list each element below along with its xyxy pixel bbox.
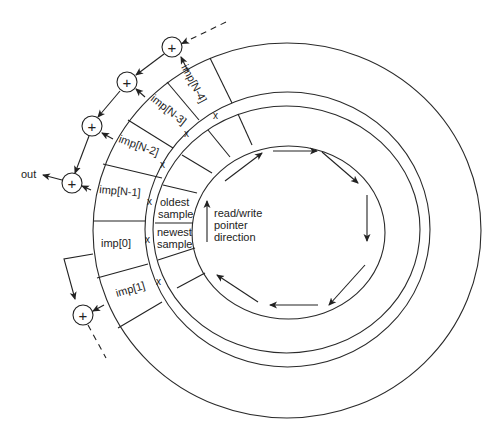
plus-icon: + xyxy=(68,175,77,192)
newest-sample-label-line2: sample xyxy=(157,238,192,250)
oldest-sample-label-line1: oldest xyxy=(160,196,189,208)
imp0-to-adder-connector xyxy=(64,254,93,299)
output-label: out xyxy=(21,168,36,180)
rotation-arrow-icon xyxy=(217,275,258,302)
cell-label-imp-0: imp[0] xyxy=(101,237,131,249)
cell-to-adder-arrow-icon xyxy=(93,305,104,311)
circular-buffer-diagram: imp[N-4] imp[N-3] imp[N-2] imp[N-1] imp[… xyxy=(0,0,497,434)
pointer-label-line3: direction xyxy=(214,231,256,243)
pointer-label-line2: pointer xyxy=(214,219,248,231)
plus-icon: + xyxy=(79,307,88,324)
sample-ring xyxy=(153,106,420,353)
multiply-icon: x xyxy=(184,128,189,139)
multiply-icon: x xyxy=(160,159,165,170)
rotation-arrow-icon xyxy=(329,265,365,305)
cell-label-imp-1: imp[1] xyxy=(114,279,146,299)
output-arrow-icon xyxy=(43,175,62,180)
pointer-label-line1: read/write xyxy=(214,207,262,219)
chain-arrow-icon xyxy=(75,136,89,173)
sample-ring-outer-edge xyxy=(153,106,420,353)
continuation-dashed-line xyxy=(185,22,226,42)
cell-to-adder-arrow-icon xyxy=(136,89,145,97)
newest-sample-label-line1: newest xyxy=(157,226,192,238)
cell-label-imp-n-4: imp[N-4] xyxy=(179,62,209,104)
oldest-sample-label-line2: sample xyxy=(158,208,193,220)
continuation-dashed-line xyxy=(88,325,106,358)
rotation-arrow-icon xyxy=(225,153,262,181)
multiply-icon: x xyxy=(147,196,152,207)
chain-arrow-icon xyxy=(136,54,164,75)
cell-to-adder-arrow-icon xyxy=(102,133,113,139)
cell-label-imp-n-3: imp[N-3] xyxy=(149,92,189,127)
multiply-icon: x xyxy=(213,110,218,121)
plus-icon: + xyxy=(123,74,132,91)
multiply-icon: x xyxy=(145,234,150,245)
cell-to-adder-arrow-icon xyxy=(82,186,91,190)
plus-icon: + xyxy=(168,39,177,56)
plus-icon: + xyxy=(88,118,97,135)
cell-label-imp-n-1: imp[N-1] xyxy=(99,183,141,199)
chain-arrow-icon xyxy=(98,91,120,117)
multiply-icon: x xyxy=(156,276,161,287)
